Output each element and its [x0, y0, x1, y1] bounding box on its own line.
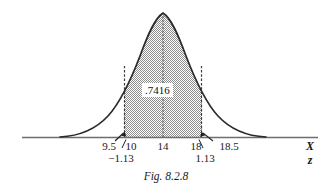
figure-caption: Fig. 8.2.8 [144, 170, 189, 182]
x-axis-label: X [306, 140, 314, 152]
x-tick-label-9-5: 9.5 [102, 141, 116, 152]
z-axis-label: z [308, 154, 313, 166]
x-tick-label-18-5: 18.5 [219, 141, 238, 152]
upper-annotation-arrow [200, 132, 213, 141]
figure-container: .7416 9.5 10 14 18 18.5 −1.13 1.13 X z F… [0, 0, 333, 193]
probability-area-label: .7416 [142, 83, 173, 97]
z-tick-label-1-13: 1.13 [195, 153, 214, 164]
x-tick-label-10: 10 [126, 141, 137, 152]
x-tick-label-18: 18 [191, 141, 202, 152]
z-tick-label-negative-1-13: −1.13 [108, 153, 133, 164]
x-tick-label-14: 14 [158, 141, 169, 152]
